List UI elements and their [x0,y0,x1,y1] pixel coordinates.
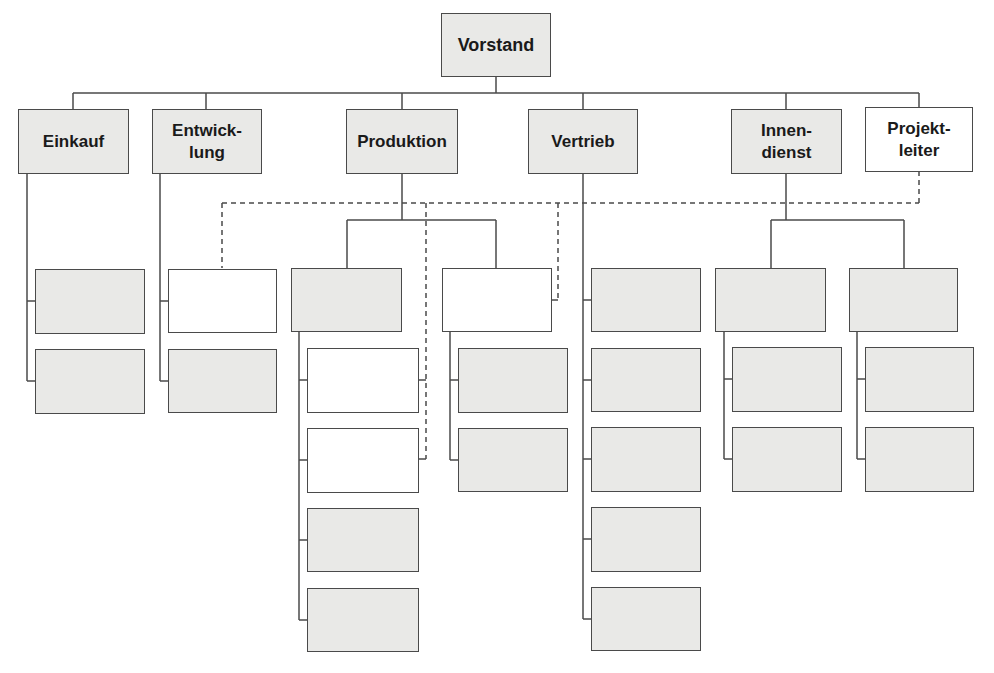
org-box-vertrieb-sub-2 [591,348,701,412]
org-box-projektleiter: Projekt- leiter [865,107,973,172]
org-box-entwicklung-project-1 [168,269,277,333]
org-box-vertrieb-sub-3 [591,427,701,492]
org-box-einkauf: Einkauf [18,109,129,174]
org-box-produktion-project-3 [307,428,419,493]
org-box-innendienst-sub-left [715,268,826,332]
org-box-vertrieb-sub-1 [591,268,701,332]
org-box-label: Entwick- lung [172,120,242,164]
org-box-label: Produktion [357,131,447,153]
org-box-label: Vorstand [458,34,535,56]
org-chart: Vorstand Einkauf Entwick- lung Produktio… [0,0,994,673]
org-box-produktion-sub-7 [458,428,568,492]
org-box-innendienst-sub-3 [732,347,842,412]
org-box-einkauf-sub-2 [35,349,145,414]
org-box-produktion-project-2 [307,348,419,413]
org-box-innendienst-sub-right [849,268,958,332]
org-box-produktion-sub-4 [307,508,419,572]
org-box-vertrieb-sub-5 [591,587,701,651]
org-box-produktion-project-right [442,268,552,332]
org-box-innendienst-sub-5 [865,347,974,412]
org-box-vertrieb: Vertrieb [528,109,638,174]
org-box-innendienst: Innen- dienst [731,109,842,174]
org-box-produktion-sub-left [291,268,402,332]
org-box-vertrieb-sub-4 [591,507,701,572]
org-box-innendienst-sub-6 [865,427,974,492]
org-box-produktion: Produktion [346,109,458,174]
org-box-produktion-sub-6 [458,348,568,413]
org-box-vorstand: Vorstand [441,13,551,77]
org-box-einkauf-sub-1 [35,269,145,334]
org-box-innendienst-sub-4 [732,427,842,492]
org-box-label: Projekt- leiter [887,118,950,162]
org-box-entwicklung-sub-2 [168,349,277,413]
org-box-label: Einkauf [43,131,104,153]
org-box-entwicklung: Entwick- lung [152,109,262,174]
org-box-produktion-sub-5 [307,588,419,652]
connector-lines [0,0,994,673]
org-box-label: Vertrieb [551,131,614,153]
org-box-label: Innen- dienst [761,120,812,164]
